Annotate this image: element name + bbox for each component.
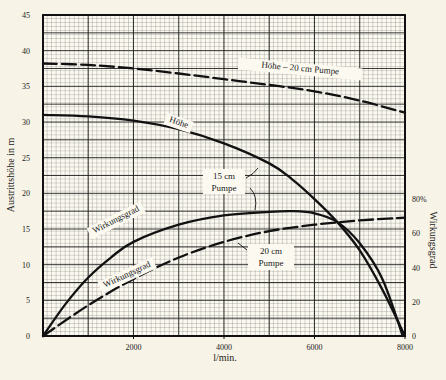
label-text: Pumpe: [211, 183, 236, 193]
x-tick-label: 8000: [397, 343, 413, 352]
y-tick-label: 0: [26, 332, 30, 341]
label-text: Pumpe: [258, 258, 283, 268]
x-tick-label: 2000: [126, 343, 142, 352]
right-axis-ticks: 020406080%: [412, 195, 427, 341]
y-tick-label: 20: [22, 189, 30, 198]
y-axis-label: Austrittshöhe in m: [5, 138, 16, 213]
pump-performance-chart: 051015202530354045 020406080% 2000400060…: [0, 0, 446, 380]
y2-tick-label: 20: [412, 298, 420, 307]
y-tick-label: 35: [22, 82, 30, 91]
y-tick-label: 30: [22, 118, 30, 127]
y-tick-label: 5: [26, 296, 30, 305]
label-text: 20 cm: [260, 246, 282, 256]
x-axis-ticks: 2000400060008000: [126, 336, 414, 352]
y-tick-label: 15: [22, 225, 30, 234]
x-axis-label: l/min.: [213, 352, 237, 363]
y-tick-label: 40: [22, 47, 30, 56]
x-tick-label: 6000: [307, 343, 323, 352]
y-tick-label: 25: [22, 154, 30, 163]
y2-tick-label: 40: [412, 264, 420, 273]
left-axis-ticks: 051015202530354045: [22, 11, 30, 341]
y2-tick-label: 0: [412, 332, 416, 341]
x-tick-label: 4000: [216, 343, 232, 352]
y2-tick-label: 60: [412, 229, 420, 238]
y-tick-label: 10: [22, 261, 30, 270]
y2-axis-label: Wirkungsgrad: [428, 212, 439, 269]
label-text: 15 cm: [213, 171, 235, 181]
y-tick-label: 45: [22, 11, 30, 20]
y2-tick-label: 80%: [412, 195, 427, 204]
